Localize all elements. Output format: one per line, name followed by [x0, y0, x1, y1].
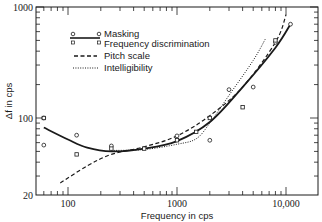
circle-marker-icon	[289, 22, 293, 26]
circle-marker-icon	[42, 143, 46, 147]
square-marker-icon	[42, 116, 45, 119]
chart-root: 1000 100 20 100 1000 10,000 Frequency in…	[0, 0, 322, 222]
square-marker-icon	[142, 147, 145, 150]
legend-label-frequency-discrimination: Frequency discrimination	[104, 38, 210, 49]
square-marker-icon	[274, 39, 277, 42]
circle-marker-icon	[208, 138, 212, 142]
circle-marker-icon	[227, 88, 231, 92]
square-marker-icon	[241, 106, 244, 109]
circle-marker-icon	[97, 32, 101, 36]
legend: Masking Frequency discrimination Pitch s…	[70, 28, 210, 73]
circle-marker-icon	[75, 133, 79, 137]
x-tick-100: 100	[61, 198, 76, 209]
circle-marker-icon	[175, 134, 179, 138]
y-axis-title: Δf in cps	[3, 83, 14, 120]
square-marker-icon	[75, 153, 78, 156]
circle-marker-icon	[71, 32, 75, 36]
y-tick-1000: 1000	[13, 2, 33, 13]
square-marker-icon	[110, 147, 113, 150]
y-tick-100: 100	[18, 113, 33, 124]
x-axis-title: Frequency in cps	[141, 210, 214, 221]
x-tick-1000: 1000	[167, 198, 187, 209]
circle-marker-icon	[251, 85, 255, 89]
square-marker-icon	[72, 41, 75, 44]
legend-item-frequency-discrimination: Frequency discrimination	[72, 38, 210, 49]
plot-frame	[36, 7, 318, 195]
square-marker-icon	[175, 139, 178, 142]
axis-ticks	[36, 7, 318, 195]
square-marker-icon	[208, 116, 211, 119]
legend-label-pitch-scale: Pitch scale	[104, 50, 150, 61]
y-tick-20: 20	[23, 190, 33, 201]
x-tick-10000: 10,000	[272, 198, 300, 209]
square-marker-icon	[98, 41, 101, 44]
legend-label-intelligibility: Intelligibility	[104, 62, 153, 73]
legend-item-intelligibility: Intelligibility	[73, 62, 153, 73]
legend-item-pitch-scale: Pitch scale	[74, 50, 150, 61]
square-marker-icon	[194, 130, 197, 133]
